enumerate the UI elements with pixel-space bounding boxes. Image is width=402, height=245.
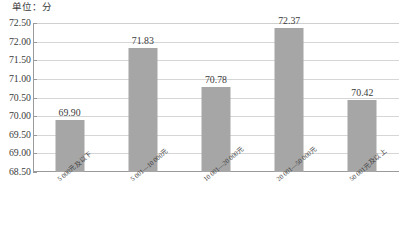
y-axis-tick-label: 72.00 bbox=[0, 37, 31, 47]
bar-group: 69.90 bbox=[33, 23, 106, 172]
y-axis-tick-label: 69.00 bbox=[0, 148, 31, 158]
y-axis-tick-label: 69.50 bbox=[0, 130, 31, 140]
y-axis-tick-mark bbox=[33, 153, 37, 154]
bar bbox=[275, 28, 304, 172]
y-axis-tick-mark bbox=[33, 135, 37, 136]
y-axis-tick-label: 71.50 bbox=[0, 55, 31, 65]
bar-value-label: 70.42 bbox=[351, 87, 373, 98]
y-axis-tick-label: 72.50 bbox=[0, 18, 31, 28]
y-axis-tick-mark bbox=[33, 172, 37, 173]
bar-group: 71.83 bbox=[106, 23, 179, 172]
bar-value-label: 70.78 bbox=[205, 74, 227, 85]
x-axis-category-labels: 5 000元及以下5 001—10 000元10 001—20 000元20 0… bbox=[33, 174, 399, 244]
bar-value-label: 69.90 bbox=[59, 107, 81, 118]
y-axis-tick-mark bbox=[33, 116, 37, 117]
y-axis-tick-label: 68.50 bbox=[0, 167, 31, 177]
y-axis-tick-label: 70.50 bbox=[0, 93, 31, 103]
bar-chart: 单位：分 72.5072.0071.5071.0070.5070.0069.50… bbox=[0, 0, 402, 245]
y-axis-tick-mark bbox=[33, 79, 37, 80]
bar-group: 70.42 bbox=[326, 23, 399, 172]
y-axis-tick-mark bbox=[33, 60, 37, 61]
y-axis-tick-mark bbox=[33, 23, 37, 24]
bar bbox=[128, 48, 157, 172]
y-axis-tick-mark bbox=[33, 98, 37, 99]
bar-value-label: 71.83 bbox=[132, 35, 154, 46]
y-axis-tick-label: 70.00 bbox=[0, 111, 31, 121]
bar-value-label: 72.37 bbox=[278, 15, 300, 26]
y-axis: 72.5072.0071.5071.0070.5070.0069.5069.00… bbox=[0, 0, 31, 245]
y-axis-tick-label: 71.00 bbox=[0, 74, 31, 84]
y-axis-tick-mark bbox=[33, 42, 37, 43]
